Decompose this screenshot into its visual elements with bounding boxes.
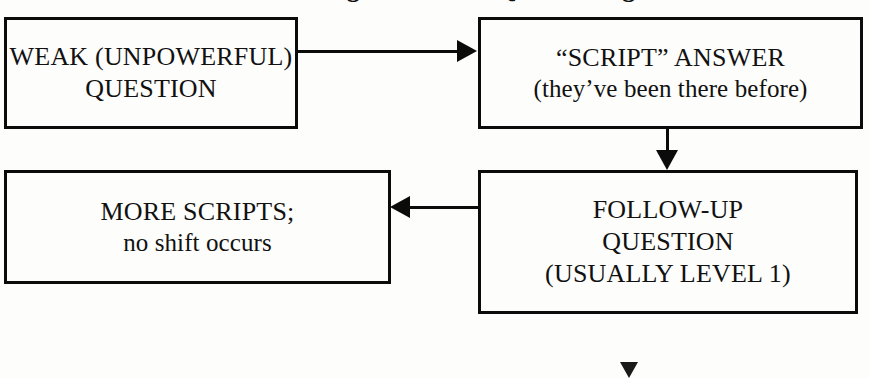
node-followup-question-line1: FOLLOW-UP: [593, 194, 744, 226]
arrow-down-icon: [656, 150, 678, 170]
arrow-left-icon: [390, 196, 410, 218]
node-weak-question-line1: WEAK (UNPOWERFUL): [10, 41, 293, 73]
node-more-scripts[interactable]: MORE SCRIPTS; no shift occurs: [4, 170, 391, 284]
node-script-answer-line1: “SCRIPT” ANSWER: [556, 42, 785, 74]
node-followup-question[interactable]: FOLLOW-UP QUESTION (USUALLY LEVEL 1): [478, 170, 858, 314]
node-script-answer-line2: (they’ve been there before): [533, 74, 807, 105]
connector-line: [297, 50, 459, 53]
cropped-title-remnant: The Dialogue of Weak Questioning: [0, 0, 869, 4]
node-followup-question-line2: QUESTION: [602, 226, 734, 258]
cropped-arrow-up-icon: [620, 362, 638, 378]
node-more-scripts-line2: no shift occurs: [123, 228, 272, 259]
node-followup-question-line3: (USUALLY LEVEL 1): [545, 258, 791, 290]
node-script-answer[interactable]: “SCRIPT” ANSWER (they’ve been there befo…: [478, 17, 863, 129]
arrow-right-icon: [457, 40, 477, 62]
node-more-scripts-line1: MORE SCRIPTS;: [100, 196, 294, 228]
node-weak-question[interactable]: WEAK (UNPOWERFUL) QUESTION: [4, 17, 298, 129]
node-weak-question-line2: QUESTION: [85, 73, 217, 105]
connector-line: [410, 206, 479, 209]
